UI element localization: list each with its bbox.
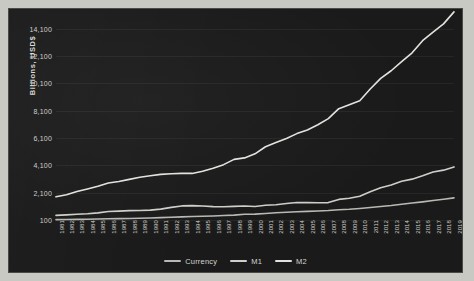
chart-frame: Billions, USD$ 1002,1004,1006,1008,10010…: [8, 8, 463, 273]
y-tick-label: 6,100: [33, 135, 52, 142]
x-tick-label: 1990: [153, 220, 159, 234]
x-tick-label: 2010: [362, 220, 368, 234]
x-tick-label: 2003: [289, 220, 295, 234]
x-tick-label: 1982: [69, 220, 75, 234]
x-tick-label: 2009: [352, 220, 358, 234]
legend-item[interactable]: M2: [275, 257, 307, 266]
legend-item[interactable]: Currency: [164, 257, 217, 266]
x-tick-label: 2007: [331, 220, 337, 234]
series-line-currency: [56, 198, 454, 220]
x-tick-label: 2001: [268, 220, 274, 234]
x-tick-label: 1997: [226, 220, 232, 234]
x-tick-label: 2019: [457, 220, 463, 234]
x-tick-label: 1991: [163, 220, 169, 234]
x-tick-label: 2005: [310, 220, 316, 234]
legend-swatch: [230, 260, 247, 262]
legend-item[interactable]: M1: [230, 257, 262, 266]
x-tick-label: 1981: [59, 220, 65, 234]
legend-swatch: [275, 260, 292, 262]
x-tick-label: 1998: [237, 220, 243, 234]
x-tick-label: 1985: [100, 220, 106, 234]
legend-label: M2: [296, 257, 307, 266]
chart-legend: CurrencyM1M2: [9, 254, 462, 268]
legend-swatch: [164, 260, 181, 262]
x-tick-label: 2016: [425, 220, 431, 234]
series-line-m2: [56, 12, 454, 197]
x-tick-label: 2018: [446, 220, 452, 234]
y-tick-label: 100: [40, 217, 52, 224]
x-tick-label: 2008: [341, 220, 347, 234]
x-tick-label: 1983: [79, 220, 85, 234]
x-tick-label: 1996: [216, 220, 222, 234]
x-tick-label: 2017: [436, 220, 442, 234]
y-tick-label: 2,100: [33, 189, 52, 196]
x-tick-label: 1984: [90, 220, 96, 234]
x-tick-label: 1992: [174, 220, 180, 234]
x-tick-label: 1987: [121, 220, 127, 234]
x-tick-label: 1994: [195, 220, 201, 234]
line-chart-svg: [56, 15, 454, 220]
x-tick-label: 1993: [184, 220, 190, 234]
legend-label: M1: [251, 257, 262, 266]
plot-area: 1002,1004,1006,1008,10010,10012,10014,10…: [56, 15, 454, 220]
x-tick-label: 2013: [394, 220, 400, 234]
x-tick-label: 2014: [404, 220, 410, 234]
x-tick-label: 2015: [415, 220, 421, 234]
x-tick-label: 2011: [373, 220, 379, 233]
x-tick-label: 2004: [299, 220, 305, 234]
x-tick-label: 1986: [111, 220, 117, 234]
x-tick-label: 1995: [205, 220, 211, 234]
x-tick-label: 2006: [320, 220, 326, 234]
x-tick-label: 2002: [278, 220, 284, 234]
x-tick-label: 1999: [247, 220, 253, 234]
x-tick-label: 1989: [142, 220, 148, 234]
series-layer: [56, 15, 454, 220]
x-tick-label: 2000: [258, 220, 264, 234]
x-tick-label: 2012: [383, 220, 389, 234]
legend-label: Currency: [185, 257, 217, 266]
series-line-m1: [56, 167, 454, 215]
x-tick-label: 1988: [132, 220, 138, 234]
y-tick-label: 4,100: [33, 162, 52, 169]
y-axis-title: Billions, USD$: [28, 21, 37, 111]
